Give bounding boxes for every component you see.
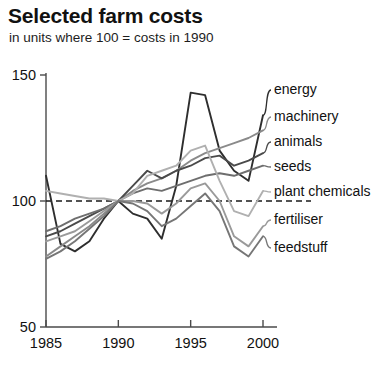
x-tick-label: 1995: [175, 335, 207, 351]
legend-label-seeds: seeds: [274, 158, 311, 174]
legend-leader-lines: [263, 90, 271, 248]
legend-labels: energymachineryanimalsseedsplant chemica…: [274, 81, 371, 255]
y-tick-label: 150: [12, 67, 36, 83]
legend-label-energy: energy: [274, 81, 317, 97]
series-lines: [46, 93, 263, 259]
leader-line-machinery: [263, 117, 271, 130]
y-tick-label: 100: [12, 193, 36, 209]
plot-svg: 50100150 1985199019952000 energymachiner…: [0, 52, 392, 370]
chart-subtitle: in units where 100 = costs in 1990: [9, 30, 214, 45]
legend-label-animals: animals: [274, 133, 322, 149]
x-tick-label: 2000: [247, 335, 279, 351]
farm-costs-chart: Selected farm costs in units where 100 =…: [0, 0, 392, 370]
leader-line-plant-chemicals: [263, 191, 271, 192]
plot-area: 50100150 1985199019952000 energymachiner…: [0, 52, 392, 370]
x-axis: 1985199019952000: [30, 320, 279, 351]
leader-line-seeds: [263, 166, 271, 167]
legend-label-machinery: machinery: [274, 108, 339, 124]
leader-line-animals: [263, 142, 271, 153]
leader-line-feedstuff: [263, 236, 271, 248]
leader-line-fertiliser: [263, 220, 271, 226]
y-axis: 50100150: [12, 67, 46, 335]
legend-label-plant-chemicals: plant chemicals: [274, 183, 371, 199]
legend-label-fertiliser: fertiliser: [274, 211, 323, 227]
x-tick-label: 1990: [102, 335, 134, 351]
y-tick-label: 50: [20, 319, 36, 335]
x-tick-label: 1985: [30, 335, 62, 351]
legend-label-feedstuff: feedstuff: [274, 239, 328, 255]
leader-line-energy: [263, 90, 271, 115]
chart-title: Selected farm costs: [8, 4, 203, 28]
